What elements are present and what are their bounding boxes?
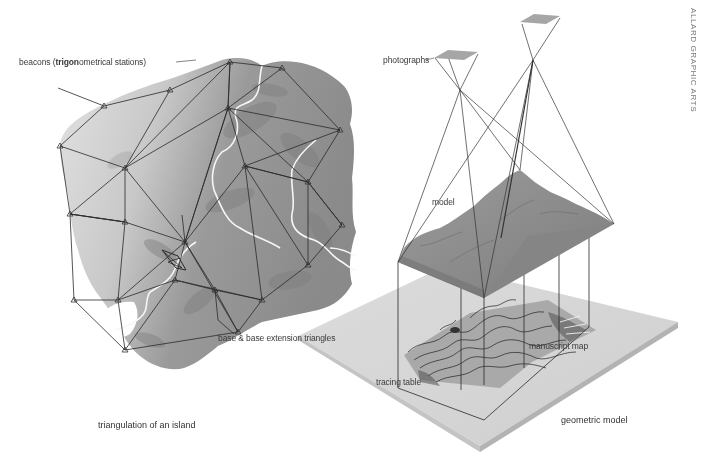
photographs-label: photographs <box>383 55 429 65</box>
beacons-label: beacons (trigonometrical stations) <box>19 57 146 67</box>
island <box>60 58 356 369</box>
tracing-table-label: tracing table <box>376 377 421 387</box>
credit-text: ALLARD GRAPHIC ARTS <box>689 8 698 112</box>
left-caption: triangulation of an island <box>98 420 196 430</box>
right-caption: geometric model <box>561 415 628 425</box>
base-triangles-label: base & base extension triangles <box>218 333 335 343</box>
beacons-leader <box>176 60 196 62</box>
diagram-canvas <box>0 0 718 466</box>
manuscript-map-label: manuscript map <box>529 341 588 351</box>
photograph-plate-left <box>434 50 478 60</box>
figure: beacons (trigonometrical stations) base … <box>0 0 718 466</box>
model-label: model <box>432 197 455 207</box>
photograph-plate-right <box>520 14 560 24</box>
